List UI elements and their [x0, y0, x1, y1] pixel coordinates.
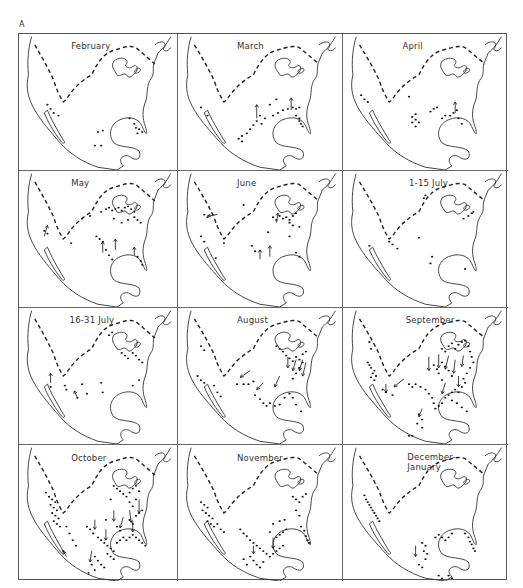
observation-dot — [469, 351, 471, 353]
observation-dot — [223, 531, 225, 533]
observation-dot — [471, 543, 473, 545]
observation-dot — [370, 376, 372, 378]
great-lakes — [112, 332, 140, 351]
observation-dot — [472, 547, 474, 549]
observation-dot — [308, 542, 310, 544]
observation-dot — [424, 195, 426, 197]
observation-dot — [43, 230, 45, 232]
observation-dot — [461, 406, 463, 408]
observation-dot — [370, 367, 372, 369]
great-lakes — [275, 195, 304, 214]
observation-dot — [100, 564, 102, 566]
observation-dot — [360, 94, 362, 96]
observation-dot — [282, 351, 284, 353]
observation-dot — [140, 222, 142, 224]
observation-dot — [283, 397, 285, 399]
observation-dot — [457, 117, 459, 119]
observation-dot — [215, 257, 217, 259]
observation-dot — [444, 539, 446, 541]
observation-dot — [87, 572, 89, 574]
observation-dot — [368, 341, 370, 343]
observation-dot — [421, 419, 423, 421]
observation-dot — [462, 378, 464, 380]
observation-dot — [141, 542, 143, 544]
observation-dot — [246, 535, 248, 537]
observation-dot — [124, 207, 126, 209]
observation-dot — [103, 567, 105, 569]
observation-dot — [262, 561, 264, 563]
observation-dot — [424, 545, 426, 547]
maritimes-coast — [485, 453, 502, 462]
observation-dot — [282, 545, 284, 547]
observation-dot — [426, 553, 428, 555]
observation-dot — [305, 493, 307, 495]
observation-dot — [298, 226, 300, 228]
observation-dot — [275, 537, 277, 539]
observation-dot — [117, 207, 119, 209]
observation-dot — [89, 215, 91, 217]
observation-dot — [116, 488, 118, 490]
observation-dot — [265, 405, 267, 407]
observation-dot — [269, 531, 271, 533]
observation-dot — [136, 132, 138, 134]
observation-dot — [295, 252, 297, 254]
observation-dot — [206, 520, 208, 522]
north-america-map — [178, 308, 342, 444]
observation-dot — [298, 359, 300, 361]
observation-dot — [86, 526, 88, 528]
observation-dot — [454, 389, 456, 391]
maritimes-coast — [155, 316, 171, 325]
observation-dot — [411, 435, 413, 437]
observation-dot — [418, 237, 420, 239]
observation-dot — [411, 122, 413, 124]
observation-dot — [411, 386, 413, 388]
observation-dot — [97, 537, 99, 539]
observation-dot — [46, 233, 48, 235]
great-lakes — [112, 58, 140, 77]
observation-dot — [113, 485, 115, 487]
observation-dot — [54, 501, 56, 503]
observation-dot — [306, 539, 308, 541]
observation-dot — [396, 248, 398, 250]
observation-dot — [121, 352, 123, 354]
observation-dot — [423, 197, 425, 199]
observation-dot — [418, 564, 420, 566]
observation-dot — [436, 107, 438, 109]
observation-dot — [122, 493, 124, 495]
observation-dot — [249, 128, 251, 130]
observation-dot — [464, 268, 466, 270]
observation-dot — [138, 539, 140, 541]
observation-dot — [272, 553, 274, 555]
observation-dot — [424, 558, 426, 560]
observation-dot — [53, 507, 55, 509]
observation-dot — [414, 119, 416, 121]
observation-dot — [300, 526, 302, 528]
baja-peninsula — [44, 384, 64, 417]
observation-dot — [287, 108, 289, 110]
maritimes-coast — [155, 453, 171, 462]
observation-dot — [206, 507, 208, 509]
observation-dot — [242, 558, 244, 560]
observation-dot — [116, 526, 118, 528]
observation-dot — [441, 577, 443, 579]
north-america-map — [19, 171, 177, 307]
north-america-map — [343, 34, 508, 170]
month-map-panel-august: August — [178, 308, 343, 445]
observation-dot — [219, 528, 221, 530]
month-map-panel-february: February — [19, 34, 178, 171]
observation-dot — [203, 504, 205, 506]
movement-arrow-icon — [240, 371, 250, 378]
observation-dot — [110, 556, 112, 558]
continent-outline — [352, 174, 502, 307]
observation-dot — [279, 534, 281, 536]
observation-dot — [438, 534, 440, 536]
observation-marks — [200, 98, 304, 142]
north-america-map — [19, 34, 177, 170]
observation-dot — [252, 381, 254, 383]
panel-label: 1-15 July — [409, 178, 448, 188]
observation-dot — [381, 389, 383, 391]
observation-dot — [451, 375, 453, 377]
observation-dot — [447, 370, 449, 372]
observation-dot — [464, 340, 466, 342]
observation-dot — [275, 98, 277, 100]
